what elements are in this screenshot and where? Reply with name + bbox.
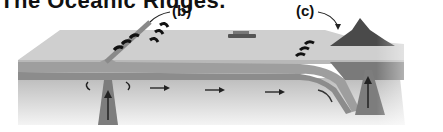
ridge-illustration [0, 0, 443, 132]
label-c: (c) [296, 2, 314, 19]
label-b: (b) [172, 2, 191, 19]
diagram-root: The Oceanic Ridges. [0, 0, 443, 132]
